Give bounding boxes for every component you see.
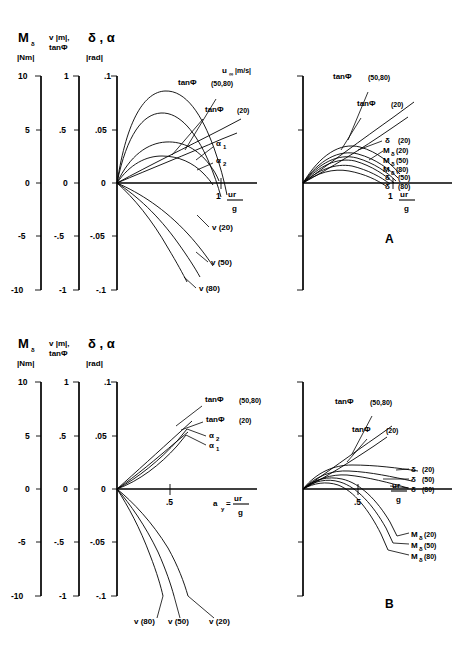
xlabel-den-a-left: g — [232, 204, 237, 213]
leader-mdelta-80-b-right — [388, 550, 409, 555]
axis-delta-alpha-b: .1 .05 0 -.05 -.1 — [90, 377, 117, 601]
xlabel-eq-b-left: = — [226, 499, 231, 508]
tick-m-10-b: 10 — [18, 377, 28, 387]
label-tanphi-5080-a-left: tanΦ — [178, 78, 197, 87]
leader-tanphi-20-a-right — [341, 118, 361, 150]
tick-v-p5-b: .5 — [59, 431, 66, 441]
tick-d-negp1-b: -.1 — [96, 591, 106, 601]
label-uinf-unit-a-left: |m/s| — [235, 67, 251, 75]
tick-v-negp5: -.5 — [54, 231, 64, 241]
tick-m-5: 5 — [25, 125, 30, 135]
curve-v50-a-left — [117, 183, 200, 277]
label-v80-b-left: v (80) — [134, 617, 155, 626]
axis-m-delta: 10 5 0 -5 -10 — [11, 71, 41, 295]
curve-mdelta-80-b-right — [303, 483, 388, 550]
xlabel-ay-sub-b-left: y — [221, 506, 225, 512]
tick-m-10: 10 — [18, 71, 28, 81]
header-rad-unit-b: |rad| — [86, 359, 103, 368]
leader-v20-a-left — [197, 215, 209, 227]
tick-m-5-b: 5 — [25, 431, 30, 441]
curve-uinf-2-a-left — [117, 113, 221, 197]
tick-d-p05: .05 — [95, 125, 107, 135]
header-nm-unit-b: |Nm| — [17, 359, 34, 368]
label-delta-50-paren-a-right: (50) — [398, 174, 410, 182]
tick-d-p05-b: .05 — [95, 431, 107, 441]
panel-b: M δ |Nm| v |m|, tanΦ δ , α |rad| 10 5 0 … — [0, 326, 462, 646]
tick-m-neg5: -5 — [18, 231, 26, 241]
label-mdelta-80-b-right: M — [411, 552, 418, 561]
tick-m-neg5-b: -5 — [18, 537, 26, 547]
leader-v80-b-left — [157, 596, 163, 618]
xlabel-ay-b-left: a — [213, 499, 218, 508]
leader-mdelta-20-b-right — [397, 533, 409, 536]
tick-m-neg10: -10 — [11, 285, 24, 295]
leader-tanphi-5080-b-right — [352, 416, 372, 454]
tick-d-negp05: -.05 — [90, 231, 105, 241]
header-rad-unit: |rad| — [86, 53, 103, 62]
panel-a: M δ |Nm| v |m|, tanΦ δ , α |rad| 10 5 0 … — [0, 0, 462, 320]
header-nm-unit: |Nm| — [17, 53, 34, 62]
label-mdelta-50-b-right: M — [411, 541, 418, 550]
xlabel-den-b-left: g — [238, 508, 243, 517]
tick-v-neg1: -1 — [59, 285, 67, 295]
label-v50-a-left: v (50) — [211, 258, 232, 267]
curve-v20-a-left — [117, 183, 213, 266]
label-uinf-sub-a-left: ∞ — [229, 71, 233, 77]
curve-v20-b-left — [117, 489, 188, 596]
label-tanphi-5080-a-right: tanΦ — [333, 72, 352, 81]
tick-m-0-b: 0 — [25, 484, 30, 494]
label-mdelta-20-b-right: M — [411, 530, 418, 539]
curve-tanphi-5080-a-left — [117, 119, 241, 183]
axis-delta-alpha: .1 .05 0 -.05 -.1 — [90, 71, 117, 295]
figure-page: M δ |Nm| v |m|, tanΦ δ , α |rad| 10 5 0 … — [0, 0, 462, 664]
label-delta-50-b-right: δ — [411, 475, 416, 484]
label-delta-20-a-right: δ — [385, 136, 390, 145]
header-m-delta: M — [18, 30, 29, 45]
leader-mdelta-50-b-right — [393, 543, 409, 544]
leader-alpha2-b-left — [187, 429, 206, 436]
panel-b-svg: M δ |Nm| v |m|, tanΦ δ , α |rad| 10 5 0 … — [0, 326, 462, 664]
label-mdelta-50-paren-b-right: (50) — [424, 542, 436, 550]
label-delta-80-b-right: δ — [411, 485, 416, 494]
panel-b-right-plot: .5 ur g tanΦ (50,80) tanΦ (20) δ — [297, 382, 452, 611]
header-v-m-b: v |m|, — [49, 339, 69, 348]
curve-v80-b-left — [117, 489, 163, 596]
leader-v50-b-left — [174, 596, 180, 618]
label-mdelta-50-paren-a-right: (50) — [396, 157, 408, 165]
tick-d-negp1: -.1 — [96, 285, 106, 295]
label-tanphi-5080-paren-b-right: (50,80) — [370, 399, 392, 407]
label-mdelta-20-paren-b-right: (20) — [424, 531, 436, 539]
tick-v-negp5-b: -.5 — [54, 537, 64, 547]
panel-b-left-plot: .5 a y = ur g tanΦ (50,80) tanΦ (20) — [117, 395, 261, 626]
xtick-1-a-left: 1 — [216, 191, 221, 201]
xlabel-den-b-right: g — [396, 495, 401, 504]
label-alpha2-sub-a-left: 2 — [223, 161, 227, 167]
label-mdelta-80-sub-b-right: δ — [419, 557, 423, 563]
header-tanphi-b: tanΦ — [49, 349, 68, 358]
tick-v-1-b: 1 — [64, 377, 69, 387]
label-v20-a-left: v (20) — [212, 223, 233, 232]
tick-v-0: 0 — [63, 178, 68, 188]
leader-mdelta-20-a-right — [369, 151, 383, 160]
header-delta-alpha: δ , α — [88, 30, 115, 45]
label-mdelta-20-paren-a-right: (20) — [396, 147, 408, 155]
panel-a-svg: M δ |Nm| v |m|, tanΦ δ , α |rad| 10 5 0 … — [0, 0, 462, 320]
label-delta-20-paren-b-right: (20) — [422, 466, 434, 474]
tick-d-p1-b: .1 — [104, 377, 111, 387]
leader-v80-a-left — [184, 277, 196, 288]
label-mdelta-80-paren-a-right: (80) — [396, 166, 408, 174]
panel-letter-a: A — [385, 232, 394, 246]
label-alpha1-sub-a-left: 1 — [223, 144, 227, 150]
tick-d-0: 0 — [101, 178, 106, 188]
xlabel-num-b-left: ur — [234, 494, 242, 503]
tick-d-negp05-b: -.05 — [90, 537, 105, 547]
label-delta-80-paren-a-right: (80) — [398, 183, 410, 191]
label-tanphi-20-b-right: tanΦ — [352, 425, 371, 434]
label-mdelta-50-a-right: M — [383, 156, 390, 165]
label-alpha1-sub-b-left: 1 — [216, 446, 220, 452]
label-delta-50-paren-b-right: (50) — [422, 476, 434, 484]
label-v50-b-left: v (50) — [168, 617, 189, 626]
label-v20-b-left: v (20) — [209, 617, 230, 626]
header-delta-alpha-b: δ , α — [88, 336, 115, 351]
label-tanphi-5080-paren-b-left: (50,80) — [239, 397, 261, 405]
